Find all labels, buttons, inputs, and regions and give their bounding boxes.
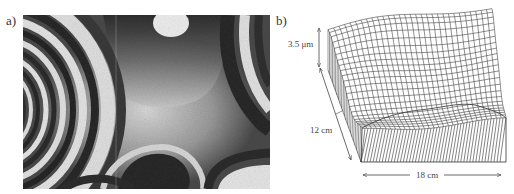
surface-wireframe-plot: 3.5 μm 12 cm 18 cm — [270, 0, 514, 194]
fringe-pattern-image — [23, 15, 270, 189]
width-dimension-label: 18 cm — [416, 170, 438, 180]
depth-dimension-label: 12 cm — [310, 125, 332, 135]
wireframe-mesh — [328, 9, 506, 130]
panel-a-label: a) — [6, 13, 16, 29]
height-dimension-label: 3.5 μm — [288, 39, 313, 49]
